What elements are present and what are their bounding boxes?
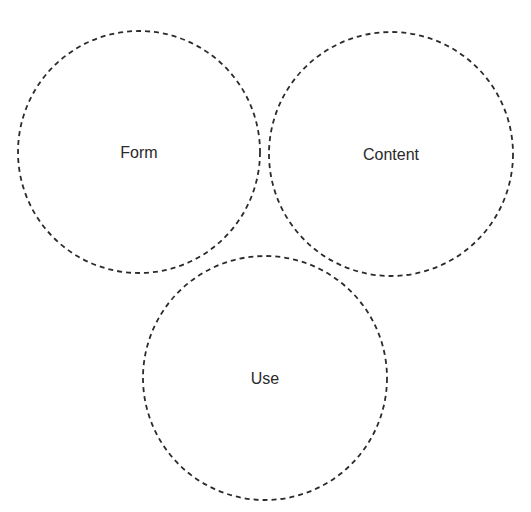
node-use: Use <box>143 256 387 500</box>
use-label: Use <box>251 370 280 387</box>
form-label: Form <box>120 144 157 161</box>
content-label: Content <box>363 146 420 163</box>
node-content: Content <box>269 32 513 276</box>
node-form: Form <box>18 31 260 273</box>
diagram-canvas: Form Content Use <box>0 0 531 512</box>
